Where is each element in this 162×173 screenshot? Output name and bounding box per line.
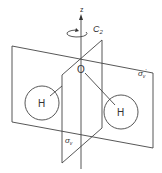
z-axis-label: z (80, 6, 84, 13)
z-axis-arrowhead (79, 14, 83, 20)
c2-label: C2 (93, 24, 104, 35)
c2v-water-diagram: z C2 O H H σv' σv (0, 0, 162, 173)
right-hydrogen-label: H (117, 107, 124, 118)
c2-rotation-arrowhead (75, 28, 79, 32)
left-hydrogen-label: H (38, 98, 45, 109)
oxygen-label: O (77, 64, 85, 75)
